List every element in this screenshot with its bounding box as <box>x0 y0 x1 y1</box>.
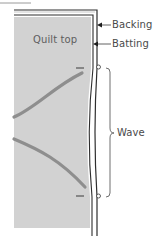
wave-brace-icon <box>106 68 114 197</box>
backing-label: Backing <box>112 19 152 30</box>
batting-arrow-icon <box>93 42 98 47</box>
quilt-edge-diagram <box>0 0 163 236</box>
backing-arrow-icon <box>97 23 102 28</box>
batting-label: Batting <box>112 38 149 49</box>
quilt-top-label: Quilt top <box>33 34 77 45</box>
wave-label: Wave <box>117 127 145 138</box>
wave-top-pin-icon <box>97 65 101 69</box>
wave-bottom-pin-icon <box>97 194 101 198</box>
